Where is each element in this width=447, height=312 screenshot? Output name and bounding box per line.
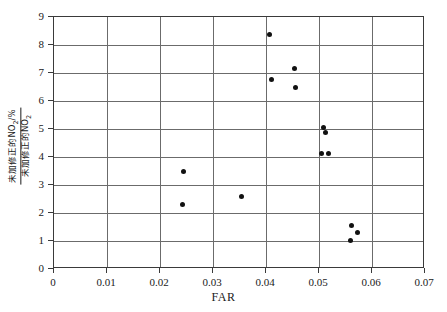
y-axis-label-unit: /% (7, 109, 17, 120)
x-axis-tick-label: 0.05 (298, 276, 338, 288)
gridline-horizontal (54, 241, 423, 242)
x-axis-tick (371, 268, 372, 273)
y-axis-tick-label: 4 (24, 150, 44, 162)
data-point (355, 230, 360, 235)
gridline-vertical (266, 17, 267, 267)
gridline-horizontal (54, 213, 423, 214)
y-axis-tick (48, 44, 53, 45)
data-point (323, 130, 328, 135)
x-axis-tick-label: 0.06 (351, 276, 391, 288)
y-axis-tick (48, 240, 53, 241)
x-axis-tick-label: 0.02 (139, 276, 179, 288)
y-axis-tick (48, 72, 53, 73)
y-axis-tick-label: 0 (24, 262, 44, 274)
x-axis-label: FAR (0, 290, 447, 305)
x-axis-tick (424, 268, 425, 273)
x-axis-tick-label: 0 (33, 276, 73, 288)
data-point (349, 223, 354, 228)
y-axis-tick (48, 156, 53, 157)
data-point (319, 151, 324, 156)
x-axis-tick (212, 268, 213, 273)
gridline-horizontal (54, 185, 423, 186)
y-axis-tick-label: 3 (24, 178, 44, 190)
plot-area (53, 16, 424, 268)
data-point (267, 32, 272, 37)
y-axis-label-denominator-subscript: 2 (25, 115, 33, 119)
gridline-vertical (213, 17, 214, 267)
data-point (269, 77, 274, 82)
gridline-horizontal (54, 101, 423, 102)
x-axis-tick (53, 268, 54, 273)
gridline-horizontal (54, 157, 423, 158)
x-axis-tick-label: 0.07 (404, 276, 444, 288)
y-axis-tick-label: 2 (24, 206, 44, 218)
y-axis-tick-label: 9 (24, 10, 44, 22)
gridline-horizontal (54, 129, 423, 130)
gridline-vertical (160, 17, 161, 267)
x-axis-tick (265, 268, 266, 273)
x-axis-tick-label: 0.04 (245, 276, 285, 288)
gridline-vertical (319, 17, 320, 267)
y-axis-tick (48, 100, 53, 101)
y-axis-label-numerator-subscript: 2 (12, 120, 20, 124)
y-axis-tick (48, 128, 53, 129)
x-axis-tick (159, 268, 160, 273)
data-point (293, 85, 298, 90)
y-axis-tick (48, 16, 53, 17)
scatter-chart-figure: 未加修正的NO2/% 未加修正的NO2 FAR 00.010.020.030.0… (0, 0, 447, 312)
data-point (348, 238, 353, 243)
y-axis-tick-label: 5 (24, 122, 44, 134)
data-point (321, 125, 326, 130)
y-axis-tick-label: 6 (24, 94, 44, 106)
x-axis-tick-label: 0.01 (86, 276, 126, 288)
y-axis-tick (48, 268, 53, 269)
y-axis-tick-label: 7 (24, 66, 44, 78)
gridline-horizontal (54, 73, 423, 74)
x-axis-tick (318, 268, 319, 273)
data-point (181, 169, 186, 174)
gridline-vertical (372, 17, 373, 267)
data-point (180, 202, 185, 207)
gridline-horizontal (54, 45, 423, 46)
data-point (326, 151, 331, 156)
y-axis-tick-label: 1 (24, 234, 44, 246)
y-axis-tick (48, 184, 53, 185)
y-axis-tick (48, 212, 53, 213)
data-point (239, 194, 244, 199)
data-point (292, 66, 297, 71)
y-axis-tick-label: 8 (24, 38, 44, 50)
gridline-vertical (107, 17, 108, 267)
x-axis-tick (106, 268, 107, 273)
x-axis-tick-label: 0.03 (192, 276, 232, 288)
